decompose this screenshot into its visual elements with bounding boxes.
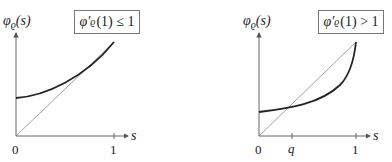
left-tick-1-label: 1 [110, 143, 117, 156]
right-y-label: φϱ(s) [243, 14, 271, 30]
right-tick-q-label: q [288, 142, 295, 155]
condition-sub: ϱ [90, 17, 95, 27]
left-curve [16, 42, 114, 98]
condition-func: φ′ [80, 15, 91, 29]
right-tick-0-label: 0 [255, 143, 262, 156]
left-y-label: φϱ(s) [3, 14, 31, 30]
condition-rest: (1) ≤ 1 [96, 15, 134, 29]
left-condition-box: φ′ϱ(1) ≤ 1 [74, 10, 140, 34]
right-diagonal [259, 42, 356, 136]
left-plot [16, 33, 128, 139]
right-plot [259, 33, 370, 139]
right-tick-1-label: 1 [352, 143, 359, 156]
y-label-func: φ [3, 13, 11, 28]
left-diagonal [16, 42, 114, 136]
y-label-func: φ [243, 13, 251, 28]
y-label-arg: (s) [256, 13, 271, 28]
condition-rest: (1) > 1 [340, 15, 378, 29]
condition-func: φ′ [323, 15, 334, 29]
right-condition-box: φ′ϱ(1) > 1 [318, 10, 384, 34]
y-label-arg: (s) [16, 13, 31, 28]
left-x-label: s [131, 129, 136, 143]
right-x-label: s [373, 129, 378, 143]
condition-sub: ϱ [334, 17, 339, 27]
right-curve [259, 42, 356, 112]
left-tick-0-label: 0 [12, 143, 19, 156]
